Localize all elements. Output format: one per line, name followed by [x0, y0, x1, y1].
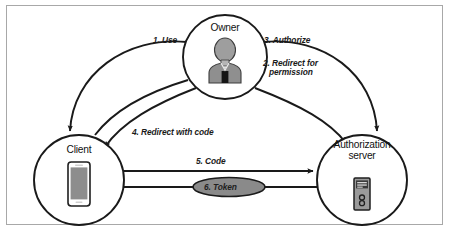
edge-label-step-2: 2. Redirect for permission — [263, 59, 318, 78]
edge-label-step-4: 4. Redirect with code — [132, 128, 214, 137]
node-label-authorization-server-line1: Authorization — [334, 139, 391, 150]
edge-label-step-6: 6. Token — [204, 182, 237, 192]
edge-label-step-3: 3. Authorize — [264, 36, 310, 45]
diagram-canvas — [0, 0, 450, 233]
node-label-owner: Owner — [0, 23, 450, 34]
edge-label-step-2-line2: permission — [263, 68, 313, 77]
node-label-client: Client — [49, 145, 109, 156]
node-label-authorization-server: Authorization server — [322, 140, 402, 162]
edge-step-2-redirect-for-permission — [255, 88, 346, 143]
oauth-flow-figure: Owner Client Authorization server 1. Use… — [0, 0, 450, 233]
server-tower-icon — [354, 178, 370, 210]
edge-step-3-authorize — [263, 41, 377, 131]
edge-label-step-1: 1. Use — [153, 36, 177, 45]
node-label-authorization-server-line2: server — [348, 150, 375, 161]
edge-label-step-5: 5. Code — [196, 157, 226, 166]
mobile-phone-icon — [68, 162, 90, 206]
edge-step-4-redirect-with-code — [105, 88, 196, 147]
